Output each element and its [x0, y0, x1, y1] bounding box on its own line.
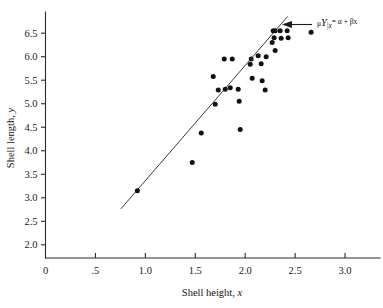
y-tick-label-2: 3.0 — [24, 192, 37, 203]
data-point — [222, 57, 227, 62]
plot-background — [0, 0, 383, 308]
data-point — [238, 127, 243, 132]
y-tick-label-7: 5.5 — [24, 75, 37, 86]
x-axis-title-variable: x — [237, 287, 243, 298]
x-axis-title-text: Shell height, — [182, 287, 238, 298]
data-point — [211, 74, 216, 79]
data-point — [260, 78, 265, 83]
data-point — [259, 61, 264, 66]
x-tick-label-1: .5 — [91, 265, 99, 276]
y-tick-label-0: 2.0 — [24, 239, 37, 250]
data-point — [272, 35, 277, 40]
data-point — [248, 62, 253, 67]
x-tick-label-5: 2.5 — [289, 265, 302, 276]
data-point — [216, 88, 221, 93]
data-point — [213, 102, 218, 107]
data-point — [199, 130, 204, 135]
data-point — [286, 35, 291, 40]
x-tick-label-4: 2.0 — [239, 265, 252, 276]
y-tick-label-6: 5.0 — [24, 98, 37, 109]
data-point — [228, 85, 233, 90]
data-point — [250, 76, 255, 81]
data-point — [237, 99, 242, 104]
chart-canvas: 2.02.53.03.54.04.55.05.56.06.5 0.51.01.5… — [0, 0, 383, 308]
data-point — [223, 87, 228, 92]
y-tick-label-3: 3.5 — [24, 169, 37, 180]
y-tick-label-4: 4.0 — [24, 145, 37, 156]
annotation-equation: = α + βx — [332, 17, 358, 26]
data-point — [278, 28, 283, 33]
y-tick-label-8: 6.0 — [24, 51, 37, 62]
data-point — [309, 30, 314, 35]
data-point — [230, 57, 235, 62]
data-point — [264, 54, 269, 59]
data-point — [273, 28, 278, 33]
y-tick-label-9: 6.5 — [24, 28, 37, 39]
y-axis-title-text: Shell length, — [5, 112, 16, 168]
x-tick-label-3: 1.5 — [189, 265, 202, 276]
y-axis-title: Shell length, y — [5, 107, 16, 168]
scatter-plot-figure: 2.02.53.03.54.04.55.05.56.06.5 0.51.01.5… — [0, 0, 383, 308]
x-axis-title: Shell height, x — [182, 287, 243, 298]
y-axis-title-variable: y — [5, 107, 16, 113]
data-point — [285, 28, 290, 33]
data-point — [236, 87, 241, 92]
data-point — [256, 53, 261, 58]
data-point — [263, 88, 268, 93]
data-point — [273, 48, 278, 53]
y-tick-label-1: 2.5 — [24, 216, 37, 227]
data-point — [249, 57, 254, 62]
data-point — [279, 36, 284, 41]
x-tick-label-2: 1.0 — [139, 265, 152, 276]
data-point — [190, 160, 195, 165]
y-tick-label-5: 4.5 — [24, 122, 37, 133]
data-point — [135, 188, 140, 193]
x-tick-label-0: 0 — [43, 265, 48, 276]
x-tick-label-6: 3.0 — [338, 265, 351, 276]
data-point — [270, 40, 275, 45]
